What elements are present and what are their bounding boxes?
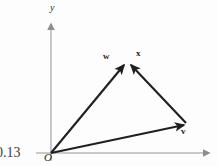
vector-label-x: x [136,49,141,58]
y-axis-label: y [50,3,54,13]
vector-label-v: v [181,127,186,136]
vector-x-line [131,65,186,123]
vector-label-w: w [103,52,110,61]
vector-diagram-figure: w x v y O 0.13 [0,0,217,166]
vector-diagram-canvas [0,0,217,166]
figure-number: 0.13 [0,146,21,160]
origin-label: O [44,152,52,163]
